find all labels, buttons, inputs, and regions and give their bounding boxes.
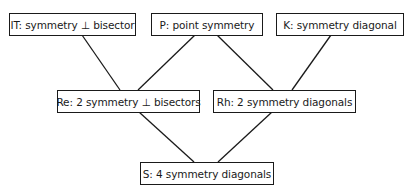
edge-p-to-re <box>138 35 195 90</box>
edge-re-to-s <box>139 112 194 162</box>
node-square: S: 4 symmetry diagonals <box>140 162 274 185</box>
node-rhombus: Rh: 2 symmetry diagonals <box>213 90 356 113</box>
node-parallelogram: P: point symmetry <box>151 13 263 36</box>
node-kite: K: symmetry diagonal <box>276 13 404 36</box>
edge-p-to-rh <box>217 35 273 90</box>
edge-k-to-rh <box>292 35 331 90</box>
node-rectangle: Re: 2 symmetry ⊥ bisectors <box>57 90 200 113</box>
node-isosceles-trapezoid: IT: symmetry ⊥ bisector <box>9 13 136 36</box>
edge-it-to-re <box>82 35 120 90</box>
edge-rh-to-s <box>218 112 272 162</box>
